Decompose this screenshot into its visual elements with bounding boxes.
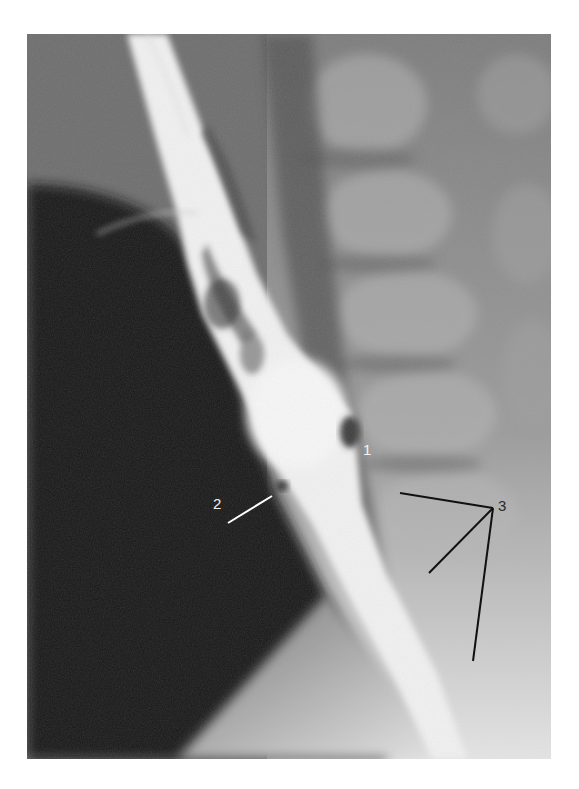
radiograph-image [27,34,551,759]
label-1: 1 [363,442,371,457]
label-2: 2 [213,496,221,511]
radiograph-figure: 1 2 3 [27,34,551,759]
label-3: 3 [498,498,506,513]
